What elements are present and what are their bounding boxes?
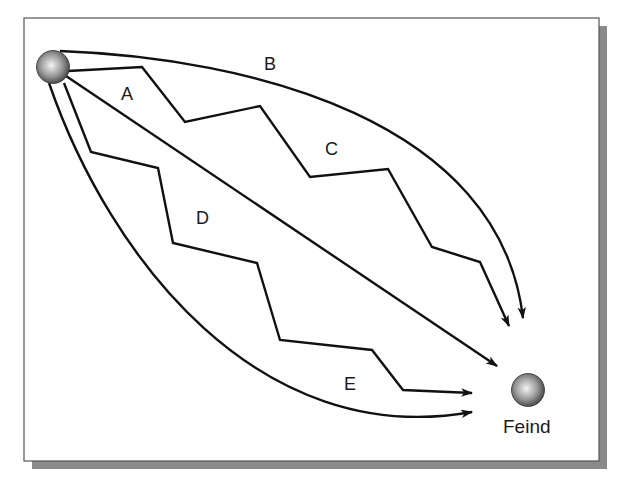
- source-sphere-icon: [37, 51, 70, 84]
- path-label-d: D: [196, 208, 209, 228]
- approach-paths-diagram: A B C D E Feind: [0, 0, 626, 495]
- target-sphere-icon: [512, 374, 545, 407]
- path-label-a: A: [121, 84, 133, 104]
- diagram-canvas: A B C D E Feind: [0, 0, 626, 495]
- path-label-b: B: [264, 54, 276, 74]
- path-label-c: C: [325, 139, 338, 159]
- target-label: Feind: [503, 416, 551, 437]
- path-label-e: E: [344, 374, 356, 394]
